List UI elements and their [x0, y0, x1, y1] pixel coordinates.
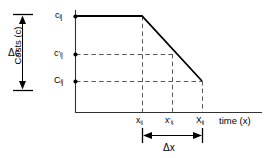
y-tick-C-ij-sub: ij	[61, 78, 63, 85]
y-tick-c-ij-sub: ij	[60, 13, 62, 20]
x-axis-title: time (x)	[219, 116, 251, 126]
cost-time-chart	[0, 0, 267, 158]
delta-x-arrowhead-right	[193, 132, 202, 139]
y-tick-label-c-ij: cij	[55, 11, 62, 21]
x-tick-x-ij-sub: ij	[140, 118, 142, 125]
y-tick-label-C-ij: Cij	[54, 76, 63, 86]
marker-c-ij	[73, 14, 77, 18]
x-tick-X-ij-sub: ij	[202, 118, 204, 125]
x-tick-label-x-prime: x'ij	[165, 116, 173, 125]
cost-curve	[76, 16, 202, 81]
cost-curve-path	[76, 16, 202, 81]
delta-x-measure	[143, 128, 203, 143]
y-tick-c-prime-sub: ij	[60, 51, 62, 58]
marker-c-prime	[73, 52, 77, 56]
y-tick-label-c-prime: c'ij	[54, 49, 63, 59]
delta-x-label: Δx	[163, 143, 175, 153]
x-tick-x-prime-sub: ij	[171, 118, 173, 125]
figure-canvas: Costs (c) cij c'ij Cij xij x'ij Xij time…	[0, 0, 267, 158]
vertical-guides	[143, 16, 203, 112]
delta-x-arrowhead-left	[143, 132, 152, 139]
y-axis-title: Costs (c)	[12, 9, 23, 83]
delta-c-label: Δc	[8, 48, 20, 58]
marker-C-ij	[73, 79, 77, 83]
horizontal-guides	[76, 17, 202, 82]
axis-lines	[75, 10, 262, 113]
x-tick-label-X-ij: Xij	[196, 116, 204, 125]
x-tick-label-x-ij: xij	[136, 116, 143, 125]
